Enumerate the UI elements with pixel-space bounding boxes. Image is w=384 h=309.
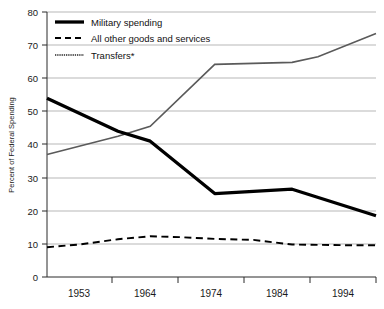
y-tick-label-50: 50 bbox=[27, 106, 38, 117]
y-tick-label-40: 40 bbox=[27, 139, 38, 150]
legend-label-all-other-goods-and-services: All other goods and services bbox=[91, 33, 211, 44]
y-tick-marks bbox=[42, 12, 47, 277]
y-axis-title: Percent of Federal Spending bbox=[7, 97, 16, 192]
y-tick-label-70: 70 bbox=[27, 40, 38, 51]
y-tick-label-30: 30 bbox=[27, 173, 38, 184]
legend-label-military-spending: Military spending bbox=[91, 17, 162, 28]
x-tick-marks bbox=[112, 277, 376, 283]
y-tick-label-20: 20 bbox=[27, 206, 38, 217]
x-tick-label-1984: 1984 bbox=[266, 288, 289, 299]
line-chart-canvas: 80 70 60 50 40 30 20 10 0 1953 1964 1974… bbox=[0, 0, 384, 309]
x-tick-label-1964: 1964 bbox=[134, 288, 157, 299]
y-tick-label-80: 80 bbox=[27, 7, 38, 18]
series-line-all-other-goods-and-services bbox=[47, 236, 376, 247]
series-line-military-spending bbox=[47, 98, 376, 216]
x-tick-label-1994: 1994 bbox=[332, 288, 355, 299]
y-tick-label-0: 0 bbox=[33, 272, 38, 283]
y-tick-label-60: 60 bbox=[27, 73, 38, 84]
gridlines bbox=[47, 12, 376, 244]
x-tick-label-1953: 1953 bbox=[68, 288, 91, 299]
x-tick-label-1974: 1974 bbox=[200, 288, 223, 299]
y-tick-label-10: 10 bbox=[27, 239, 38, 250]
chart-figure: 80 70 60 50 40 30 20 10 0 1953 1964 1974… bbox=[0, 0, 384, 309]
legend-label-transfers: Transfers* bbox=[91, 50, 135, 61]
chart-legend: Military spending All other goods and se… bbox=[55, 17, 211, 61]
